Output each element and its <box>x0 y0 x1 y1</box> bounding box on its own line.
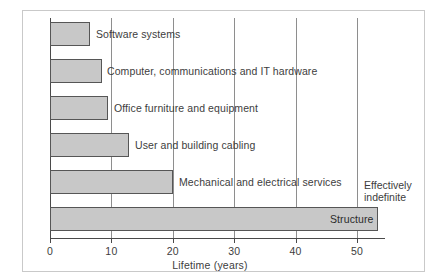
x-tick-label-10: 10 <box>105 245 117 257</box>
chart-figure: 0 10 20 30 40 50 Software systems Comput… <box>0 0 448 280</box>
annotation-line-1: Effectively <box>364 179 412 191</box>
x-tick-label-40: 40 <box>290 245 302 257</box>
x-tick-0 <box>50 238 51 243</box>
bar-label-mechanical-electrical: Mechanical and electrical services <box>179 170 342 194</box>
bar-label-software-systems: Software systems <box>96 22 180 46</box>
bar-computer-it-hardware <box>50 59 102 83</box>
bar-mechanical-electrical <box>50 170 173 194</box>
bar-structure <box>50 207 378 231</box>
bar-user-building-cabling <box>50 133 129 157</box>
bar-office-furniture <box>50 96 108 120</box>
bar-software-systems <box>50 22 90 46</box>
gridline-20 <box>173 18 174 238</box>
x-tick-label-20: 20 <box>167 245 179 257</box>
annotation-effectively-indefinite: Effectively indefinite <box>364 179 412 203</box>
gridline-10 <box>111 18 112 238</box>
x-tick-20 <box>173 238 174 243</box>
x-tick-40 <box>296 238 297 243</box>
x-tick-10 <box>111 238 112 243</box>
gridline-50 <box>357 18 358 238</box>
plot-area <box>50 18 385 238</box>
bar-label-computer-it-hardware: Computer, communications and IT hardware <box>107 59 317 83</box>
x-tick-label-50: 50 <box>351 245 363 257</box>
gridline-40 <box>296 18 297 238</box>
x-axis-label: Lifetime (years) <box>172 259 248 271</box>
x-tick-label-0: 0 <box>47 245 53 257</box>
gridline-30 <box>234 18 235 238</box>
x-axis-line <box>50 238 385 239</box>
x-axis-label-wrap: Lifetime (years) <box>0 259 448 271</box>
annotation-line-2: indefinite <box>364 191 412 203</box>
x-tick-30 <box>234 238 235 243</box>
bar-label-structure: Structure <box>330 207 374 231</box>
x-tick-50 <box>357 238 358 243</box>
x-tick-label-30: 30 <box>228 245 240 257</box>
y-axis-line <box>50 18 51 238</box>
bar-label-user-building-cabling: User and building cabling <box>135 133 255 157</box>
bar-label-office-furniture: Office furniture and equipment <box>114 96 258 120</box>
